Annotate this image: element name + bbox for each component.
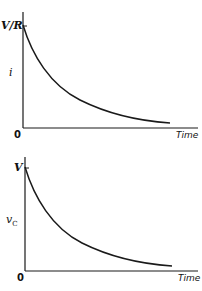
decay-diagrams bbox=[0, 0, 202, 291]
current-decay-curve bbox=[23, 25, 170, 123]
voltage-decay-chart bbox=[25, 157, 198, 271]
bottom-origin-label: 0 bbox=[17, 273, 24, 283]
top-x-axis-label: Time bbox=[176, 131, 198, 140]
top-y-start-label: V/R bbox=[1, 20, 23, 31]
bottom-x-axis-label: Time bbox=[178, 274, 200, 283]
voltage-decay-curve bbox=[25, 167, 172, 266]
bottom-y-axis-label: vC bbox=[6, 214, 18, 228]
bottom-y-start-label: V bbox=[14, 162, 23, 173]
top-origin-label: 0 bbox=[14, 130, 21, 140]
top-y-axis-label: i bbox=[9, 67, 13, 78]
vc-subscript: C bbox=[12, 220, 17, 228]
current-decay-chart bbox=[23, 12, 198, 128]
